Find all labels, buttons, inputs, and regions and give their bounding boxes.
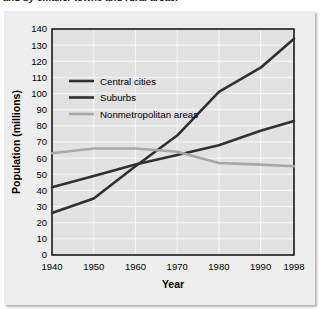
y-tick-label: 30 — [36, 201, 47, 212]
x-tick-label: 1990 — [250, 261, 271, 272]
chart-figure-panel: 0102030405060708090100110120130140 19401… — [4, 11, 315, 305]
x-tick-label: 1980 — [208, 261, 229, 272]
x-tick-label: 1998 — [283, 261, 304, 272]
y-axis-title: Population (millions) — [10, 90, 22, 194]
population-line-chart: 0102030405060708090100110120130140 19401… — [4, 11, 315, 305]
y-tick-label: 140 — [31, 23, 47, 34]
legend-label: Suburbs — [100, 92, 136, 103]
y-tick-label: 0 — [42, 249, 47, 260]
legend-label: Nonmetropolitan areas — [100, 109, 198, 120]
y-tick-label: 100 — [31, 88, 47, 99]
x-tick-label: 1940 — [41, 261, 62, 272]
x-tick-label: 1960 — [125, 261, 146, 272]
y-axis-tick-labels: 0102030405060708090100110120130140 — [31, 23, 47, 260]
y-tick-label: 10 — [36, 233, 47, 244]
y-tick-label: 20 — [36, 217, 47, 228]
legend-label: Central cities — [100, 76, 156, 87]
y-tick-label: 120 — [31, 56, 47, 67]
y-tick-label: 50 — [36, 169, 47, 180]
figure-caption-strip: and by smaller towns and rural areas. — [0, 0, 321, 9]
y-tick-label: 40 — [36, 185, 47, 196]
y-tick-label: 60 — [36, 153, 47, 164]
figure-caption-text: and by smaller towns and rural areas. — [3, 0, 178, 3]
y-tick-label: 110 — [32, 72, 47, 83]
y-tick-label: 90 — [36, 104, 47, 115]
x-tick-label: 1950 — [83, 261, 104, 272]
x-axis-title: Year — [162, 278, 184, 290]
x-axis-tick-labels: 1940195019601970198019901998 — [41, 261, 304, 272]
x-tick-label: 1970 — [167, 261, 188, 272]
y-tick-label: 130 — [31, 40, 47, 51]
y-tick-label: 70 — [36, 136, 47, 147]
y-tick-label: 80 — [36, 120, 47, 131]
